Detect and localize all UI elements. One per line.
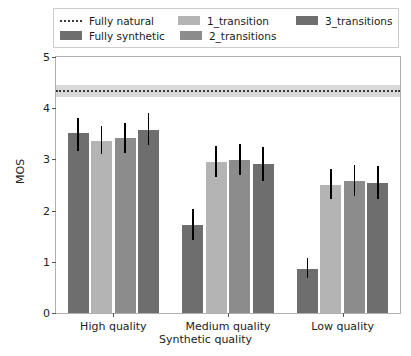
- legend-entry-3-transitions: 3_transitions: [296, 13, 392, 28]
- bar: [138, 130, 159, 313]
- y-tick-label: 0: [43, 307, 50, 320]
- y-tick-mark: [52, 211, 56, 212]
- x-tick-mark: [113, 313, 114, 317]
- legend-label-fully-synthetic: Fully synthetic: [89, 30, 165, 42]
- y-axis-label: MOS: [14, 159, 27, 184]
- swatch-icon-fully-synthetic: [60, 31, 82, 40]
- error-bar: [215, 146, 217, 178]
- legend-label-2-transitions: 2_transitions: [209, 30, 276, 42]
- bar: [68, 133, 89, 313]
- fully-natural-reference-line: [56, 90, 400, 92]
- legend-entry-fully-natural: Fully natural: [60, 13, 178, 28]
- x-axis-label: Synthetic quality: [0, 333, 411, 346]
- error-bar: [192, 209, 194, 240]
- bar: [206, 162, 227, 313]
- legend-entry-empty: [300, 28, 392, 43]
- legend-spacer: [300, 31, 322, 40]
- legend-row-1: Fully natural 1_transition 3_transitions: [60, 13, 392, 28]
- legend-label-1-transition: 1_transition: [207, 15, 269, 27]
- error-bar: [101, 126, 103, 155]
- error-bar: [148, 113, 150, 145]
- swatch-icon-2-transitions: [180, 31, 202, 40]
- legend-label-3-transitions: 3_transitions: [325, 15, 392, 27]
- mos-bar-chart-figure: Fully natural 1_transition 3_transitions…: [0, 0, 411, 356]
- legend-entry-fully-synthetic: Fully synthetic: [60, 28, 180, 43]
- bar: [367, 183, 388, 313]
- y-tick-mark: [52, 108, 56, 109]
- plot-inner: [56, 57, 400, 313]
- error-bar: [354, 165, 356, 196]
- x-tick-label: High quality: [80, 320, 146, 333]
- bar: [229, 160, 250, 313]
- y-tick-label: 3: [43, 153, 50, 166]
- error-bar: [330, 169, 332, 200]
- y-tick-mark: [52, 159, 56, 160]
- y-tick-mark: [52, 262, 56, 263]
- y-tick-label: 5: [43, 51, 50, 64]
- error-bar: [262, 147, 264, 181]
- error-bar: [377, 166, 379, 200]
- error-bar: [124, 123, 126, 153]
- x-tick-label: Low quality: [311, 320, 374, 333]
- error-bar: [77, 118, 79, 150]
- legend-label-fully-natural: Fully natural: [89, 15, 154, 27]
- bar: [115, 138, 136, 313]
- x-tick-mark: [228, 313, 229, 317]
- y-tick-label: 1: [43, 255, 50, 268]
- error-bar: [307, 258, 309, 278]
- bar: [91, 141, 112, 313]
- legend-entry-1-transition: 1_transition: [178, 13, 296, 28]
- x-tick-label: Medium quality: [185, 320, 270, 333]
- bar: [320, 185, 341, 313]
- y-tick-mark: [52, 57, 56, 58]
- y-tick-label: 4: [43, 102, 50, 115]
- y-tick-label: 2: [43, 204, 50, 217]
- y-tick-mark: [52, 313, 56, 314]
- error-bar: [239, 144, 241, 175]
- legend-row-2: Fully synthetic 2_transitions: [60, 28, 392, 43]
- dotted-line-icon: [60, 16, 82, 25]
- swatch-icon-1-transition: [178, 16, 200, 25]
- chart-legend: Fully natural 1_transition 3_transitions…: [53, 8, 399, 48]
- legend-entry-2-transitions: 2_transitions: [180, 28, 300, 43]
- x-tick-mark: [343, 313, 344, 317]
- bar: [253, 164, 274, 313]
- swatch-icon-3-transitions: [296, 16, 318, 25]
- plot-area: 012345 High qualityMedium qualityLow qua…: [55, 56, 401, 314]
- bar: [344, 181, 365, 313]
